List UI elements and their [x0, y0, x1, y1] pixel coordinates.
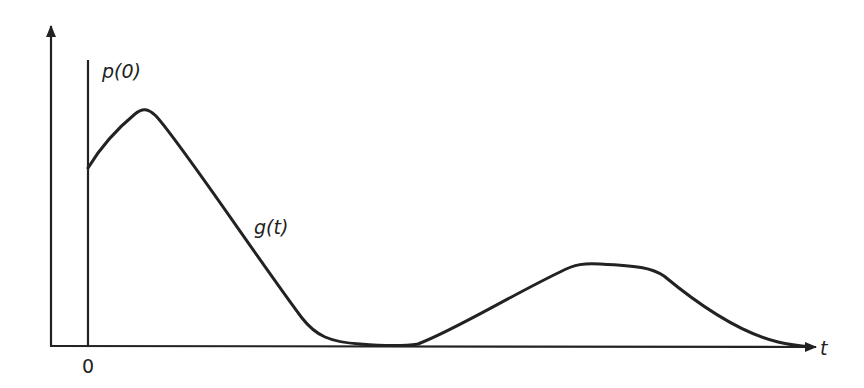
p0-label: p(0): [101, 60, 141, 82]
diagram: p(0) g(t) t 0: [0, 0, 864, 388]
g-label: g(t): [254, 216, 288, 238]
origin-label: 0: [82, 355, 94, 377]
g-curve: [88, 110, 812, 347]
x-axis: [50, 346, 816, 347]
t-axis-label: t: [820, 337, 829, 359]
